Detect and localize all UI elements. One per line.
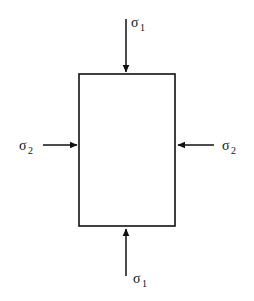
load-arrow-bottom: σ 1 (126, 229, 147, 289)
load-arrow-top: σ 1 (126, 15, 145, 72)
load-label-top-subscript: 1 (140, 22, 145, 33)
stress-element-rectangle (79, 74, 175, 226)
load-label-right-symbol: σ (222, 138, 230, 153)
load-arrow-right: σ 2 (178, 138, 236, 156)
load-label-bottom-subscript: 1 (142, 278, 147, 289)
load-label-right-subscript: 2 (231, 145, 236, 156)
load-label-left-symbol: σ (19, 138, 27, 153)
load-arrow-left: σ 2 (19, 138, 77, 156)
diagram-canvas: σ 1 σ 2 σ 2 σ 1 (0, 0, 254, 301)
load-label-bottom-symbol: σ (133, 271, 141, 286)
stress-element-diagram: σ 1 σ 2 σ 2 σ 1 (0, 0, 254, 301)
load-label-left-subscript: 2 (28, 145, 33, 156)
load-label-top-symbol: σ (131, 15, 139, 30)
